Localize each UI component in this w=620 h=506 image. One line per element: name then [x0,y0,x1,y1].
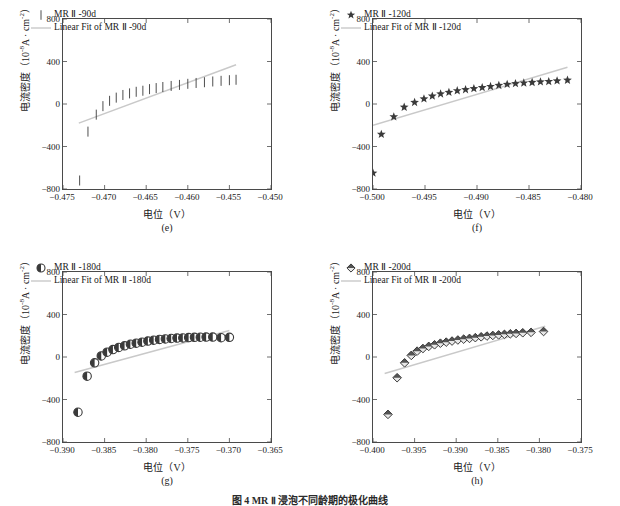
panel-tag-g: (g) [62,475,272,486]
figure-caption: 图 4 MR Ⅱ 浸泡不同龄期的极化曲线 [0,492,620,506]
x-tick-label: −0.400 [359,445,384,456]
x-tick-label: −0.495 [411,192,436,203]
legend-entry-fit: Linear Fit of MR Ⅱ -200d [338,274,461,287]
legend-h: MR Ⅱ -200dLinear Fit of MR Ⅱ -200d [338,261,461,287]
legend-label-fit: Linear Fit of MR Ⅱ -180d [54,274,151,287]
x-tick-label: −0.390 [443,445,468,456]
legend-label-fit: Linear Fit of MR Ⅱ -90d [54,21,146,34]
legend-entry-data: MR Ⅱ -120d [338,8,461,21]
line-swatch-icon [338,274,364,287]
diamond-marker-icon [338,261,364,274]
x-axis-ticks-g: −0.390−0.385−0.380−0.375−0.370−0.365 [62,445,272,459]
x-tick-label: −0.365 [257,445,282,456]
legend-label-fit: Linear Fit of MR Ⅱ -120d [364,21,461,34]
y-tick-label: 0 [366,352,371,363]
subplot-panel-e: −800−4000400800 MR Ⅱ -90dLinear Fit of M… [0,0,310,253]
y-tick-label: −400 [351,394,370,405]
legend-label-series: MR Ⅱ -180d [54,261,101,274]
legend-entry-data: MR Ⅱ -180d [28,261,151,274]
legend-label-series: MR Ⅱ -90d [54,8,96,21]
subplot-panel-h: −800−4000400800 MR Ⅱ -200dLinear Fit of … [310,253,620,506]
x-tick-label: −0.375 [174,445,199,456]
y-tick-label: 0 [56,352,61,363]
x-tick-label: −0.380 [526,445,551,456]
x-axis-label-g: 电位（V） [62,459,272,474]
x-axis-ticks-h: −0.400−0.395−0.390−0.385−0.380−0.375 [372,445,582,459]
panel-tag-f: (f) [372,222,582,233]
y-axis-label-f: 电流密度（10-8A · cm-2） [327,0,342,144]
y-tick-label: 0 [56,99,61,110]
y-axis-label-g: 电流密度（10-8A · cm-2） [17,225,32,397]
panel-tag-e: (e) [62,222,272,233]
line-swatch-icon [338,21,364,34]
plot-svg-h [373,272,581,442]
figure-container: −800−4000400800 MR Ⅱ -90dLinear Fit of M… [0,0,620,506]
x-tick-label: −0.370 [216,445,241,456]
legend-entry-fit: Linear Fit of MR Ⅱ -180d [28,274,151,287]
x-tick-label: −0.450 [257,192,282,203]
plot-area-e [62,18,272,190]
subplot-panel-g: −800−4000400800 MR Ⅱ -180dLinear Fit of … [0,253,310,506]
y-tick-label: −400 [41,141,60,152]
x-tick-label: −0.470 [91,192,116,203]
x-axis-ticks-f: −0.500−0.495−0.490−0.485−0.480 [372,192,582,206]
line-swatch-icon [28,21,54,34]
legend-f: MR Ⅱ -120dLinear Fit of MR Ⅱ -120d [338,8,461,34]
x-tick-label: −0.490 [463,192,488,203]
x-axis-ticks-e: −0.475−0.470−0.465−0.460−0.455−0.450 [62,192,272,206]
x-tick-label: −0.465 [133,192,158,203]
legend-entry-fit: Linear Fit of MR Ⅱ -90d [28,21,146,34]
legend-label-series: MR Ⅱ -200d [364,261,411,274]
legend-e: MR Ⅱ -90dLinear Fit of MR Ⅱ -90d [28,8,146,34]
x-axis-label-h: 电位（V） [372,459,582,474]
x-axis-label-e: 电位（V） [62,206,272,221]
plot-svg-g [63,272,271,442]
plot-svg-f [373,19,581,189]
y-tick-label: 400 [47,56,61,67]
vbar-marker-icon [28,8,54,21]
legend-label-fit: Linear Fit of MR Ⅱ -200d [364,274,461,287]
x-tick-label: −0.475 [49,192,74,203]
y-tick-label: −400 [351,141,370,152]
y-tick-label: 400 [357,56,371,67]
x-tick-label: −0.385 [91,445,116,456]
y-tick-label: −400 [41,394,60,405]
legend-entry-fit: Linear Fit of MR Ⅱ -120d [338,21,461,34]
y-tick-label: 400 [357,309,371,320]
x-tick-label: −0.380 [133,445,158,456]
legend-entry-data: MR Ⅱ -200d [338,261,461,274]
plot-area-g [62,271,272,443]
y-axis-label-h: 电流密度（10-8A · cm-2） [327,225,342,397]
halfcircle-marker-icon [28,261,54,274]
panel-tag-h: (h) [372,475,582,486]
legend-g: MR Ⅱ -180dLinear Fit of MR Ⅱ -180d [28,261,151,287]
legend-label-series: MR Ⅱ -120d [364,8,411,21]
x-tick-label: −0.390 [49,445,74,456]
x-tick-label: −0.480 [567,192,592,203]
line-swatch-icon [28,274,54,287]
y-tick-label: 0 [366,99,371,110]
x-tick-label: −0.385 [484,445,509,456]
plot-area-h [372,271,582,443]
x-tick-label: −0.455 [216,192,241,203]
subplot-panel-f: −800−4000400800 MR Ⅱ -120dLinear Fit of … [310,0,620,253]
y-axis-label-e: 电流密度（10-8A · cm-2） [17,0,32,144]
y-tick-label: 400 [47,309,61,320]
star-marker-icon [338,8,364,21]
legend-entry-data: MR Ⅱ -90d [28,8,146,21]
x-tick-label: −0.375 [567,445,592,456]
x-tick-label: −0.485 [515,192,540,203]
x-tick-label: −0.460 [174,192,199,203]
x-tick-label: −0.500 [359,192,384,203]
x-axis-label-f: 电位（V） [372,206,582,221]
plot-area-f [372,18,582,190]
x-tick-label: −0.395 [401,445,426,456]
plot-svg-e [63,19,271,189]
